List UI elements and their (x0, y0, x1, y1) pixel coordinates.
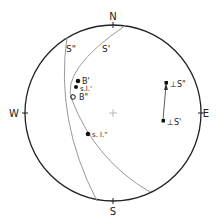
point-sl-prime (74, 85, 78, 89)
point-sl-double-prime (86, 132, 91, 137)
pole-s-prime (162, 119, 166, 123)
stereonet: N S W E S" S' B' s.l.' B" s. l." ⊥S" ⊥S' (0, 0, 218, 224)
pole-s-double-prime (165, 81, 169, 85)
point-b-prime (76, 79, 81, 84)
north-label: N (109, 11, 116, 22)
label-pole-s-prime: ⊥S' (167, 118, 181, 127)
west-label: W (9, 108, 19, 119)
rotation-line (163, 85, 166, 120)
label-b-double-prime: B" (79, 93, 88, 102)
east-label: E (203, 108, 209, 119)
label-sl-double-prime: s. l." (92, 131, 108, 139)
south-label: S (110, 206, 116, 217)
arc-label-s-double-prime: S" (66, 44, 76, 54)
arc-label-s-prime: S' (102, 44, 110, 54)
label-sl-prime: s.l.' (80, 85, 92, 93)
center-cross (109, 109, 117, 117)
label-pole-s-double-prime: ⊥S" (170, 80, 186, 89)
